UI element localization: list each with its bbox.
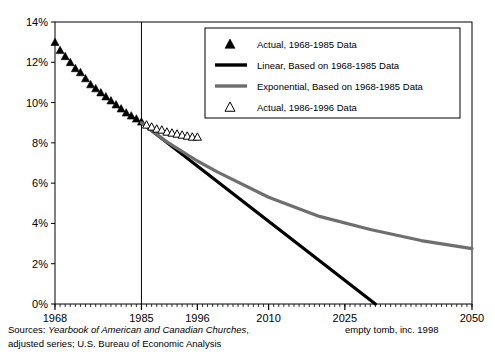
x-tick-label: 2050	[460, 312, 484, 324]
y-tick-label: 0%	[32, 298, 48, 310]
y-tick-label: 12%	[26, 56, 48, 68]
x-tick-label: 2025	[333, 312, 357, 324]
chart-container: 0%2%4%6%8%10%12%14%196819851996201020252…	[0, 0, 495, 363]
legend-label: Exponential, Based on 1968-1985 Data	[257, 81, 424, 92]
y-tick-label: 4%	[32, 217, 48, 229]
y-tick-label: 2%	[32, 258, 48, 270]
sources-label: Sources:	[8, 324, 48, 335]
x-tick-label: 1996	[185, 312, 209, 324]
legend-label: Linear, Based on 1968-1985 Data	[257, 60, 400, 71]
sources-rest: ,	[246, 324, 249, 335]
legend-label: Actual, 1968-1985 Data	[257, 39, 358, 50]
series-line-2	[141, 123, 472, 249]
data-point-filled	[56, 46, 64, 53]
credit-text: empty tomb, inc. 1998	[345, 324, 438, 335]
sources-line-2: adjusted series; U.S. Bureau of Economic…	[8, 338, 221, 349]
sources-italic-title: Yearbook of American and Canadian Church…	[48, 324, 246, 335]
y-tick-label: 10%	[26, 97, 48, 109]
x-tick-label: 2010	[256, 312, 280, 324]
sources-line-1: Sources: Yearbook of American and Canadi…	[8, 324, 249, 335]
data-point-filled	[51, 38, 59, 45]
y-tick-label: 8%	[32, 137, 48, 149]
x-tick-label: 1968	[43, 312, 67, 324]
x-tick-label: 1985	[129, 312, 153, 324]
y-tick-label: 14%	[26, 16, 48, 28]
chart-svg: 0%2%4%6%8%10%12%14%196819851996201020252…	[0, 0, 495, 363]
y-tick-label: 6%	[32, 177, 48, 189]
series-line-1	[141, 123, 375, 304]
legend-label: Actual, 1986-1996 Data	[257, 102, 358, 113]
